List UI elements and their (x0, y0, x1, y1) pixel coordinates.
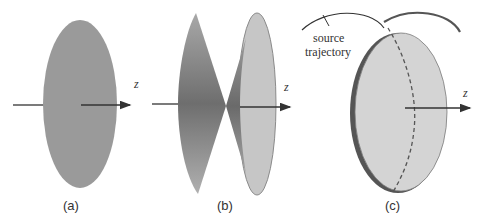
right-disc (238, 13, 276, 195)
caption: (a) (63, 198, 79, 213)
caption: (b) (217, 198, 233, 213)
z-axis-label: z (133, 77, 139, 91)
z-axis-label: z (283, 80, 289, 94)
caption: (c) (385, 198, 400, 213)
disc (43, 20, 117, 188)
disc (355, 33, 447, 191)
source-trajectory-back (302, 13, 384, 30)
panel-c: source trajectory z (c) (302, 13, 470, 213)
source-trajectory-front (384, 13, 460, 32)
panel-a: z (a) (13, 20, 139, 213)
z-axis-label: z (462, 86, 468, 100)
annotation-source: source (313, 31, 344, 45)
left-cone (178, 13, 226, 194)
figure-canvas: z (a) z (b) source trajectory z (c) (0, 0, 479, 220)
annotation-trajectory: trajectory (305, 45, 351, 59)
panel-b: z (b) (152, 13, 290, 213)
